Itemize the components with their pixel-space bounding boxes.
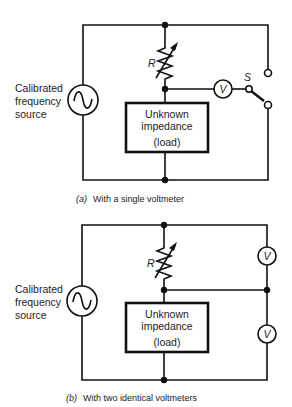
load-label-line-2: impedance	[141, 320, 193, 332]
sine-wave-icon	[73, 293, 91, 309]
caption-a-prefix: (a)	[76, 194, 87, 204]
caption-b-prefix: (b)	[66, 393, 77, 403]
junction-dot	[161, 222, 167, 228]
resistor-arrowhead-icon	[170, 42, 178, 51]
junction-dot	[161, 287, 167, 293]
voltmeter-label: V	[219, 83, 227, 95]
switch-contact-upper-icon	[265, 70, 272, 77]
diagram-a: Calibrated frequency source R Unknown im…	[15, 22, 272, 204]
caption-a-text: With a single voltmeter	[93, 194, 184, 204]
switch-blade-icon	[251, 91, 264, 101]
load-label-line-3: (load)	[154, 136, 181, 148]
circuit-diagrams: Calibrated frequency source R Unknown im…	[0, 0, 292, 407]
junction-dot	[162, 177, 168, 183]
source-label-line-3: source	[15, 309, 47, 321]
caption-b-text: With two identical voltmeters	[83, 393, 198, 403]
resistor-arrowhead-icon	[169, 242, 177, 251]
load-label-line-1: Unknown	[145, 108, 189, 120]
diagram-b: Calibrated frequency source R Unknown im…	[15, 222, 276, 403]
source-label-line-2: frequency	[15, 95, 62, 107]
voltmeter-lower-label: V	[263, 328, 271, 340]
resistor-label: R	[148, 57, 156, 69]
switch-label: S	[244, 71, 251, 83]
wire-top-b	[82, 225, 267, 286]
voltmeter-upper-label: V	[263, 250, 271, 262]
resistor-label: R	[147, 257, 155, 269]
junction-dot	[161, 377, 167, 383]
source-label-line-3: source	[15, 108, 47, 120]
junction-dot	[162, 86, 168, 92]
load-label-line-1: Unknown	[145, 308, 189, 320]
resistor-icon	[158, 45, 172, 89]
load-label-line-2: impedance	[141, 120, 193, 132]
resistor-icon	[157, 245, 171, 290]
load-label-line-3: (load)	[154, 336, 181, 348]
source-label-line-1: Calibrated	[15, 283, 63, 295]
switch-contact-lower-icon	[265, 102, 272, 109]
junction-dot	[162, 22, 168, 28]
source-label-line-1: Calibrated	[15, 82, 63, 94]
source-label-line-2: frequency	[15, 296, 62, 308]
wire-top-a	[83, 25, 268, 85]
junction-dot	[264, 287, 270, 293]
sine-wave-icon	[74, 92, 92, 108]
